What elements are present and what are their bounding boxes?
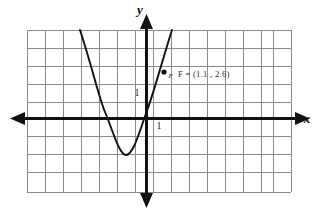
y-unit-label: 1 [135,87,140,98]
grid-vertical-lines [28,30,292,192]
x-axis-label: x [303,111,311,126]
point-F-name: F [168,72,174,80]
point-F-coordinates-label: F = (1.1 , 2.6) [178,69,230,79]
x-axis-arrow-left [10,112,25,125]
y-axis-arrow-bottom [140,193,153,208]
coordinate-plane: y x 1 1 F F = (1.1 , 2.6) [0,0,320,212]
graph-figure: y x 1 1 F F = (1.1 , 2.6) [0,0,320,212]
y-axis-label: y [135,2,143,17]
point-F-marker [161,69,166,74]
x-unit-label: 1 [157,120,162,131]
grid-horizontal-lines [27,31,291,193]
